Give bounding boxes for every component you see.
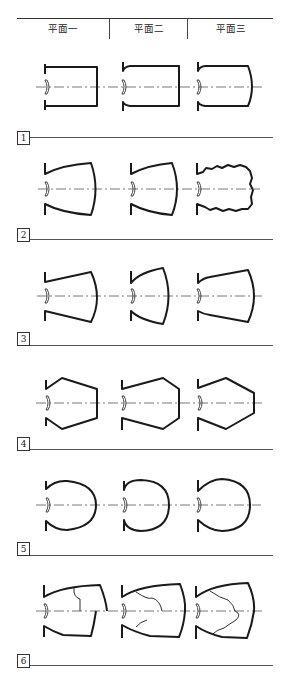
row1-plane2 xyxy=(122,62,179,111)
row-label-2: 2 xyxy=(17,228,30,242)
row1-plane1 xyxy=(45,64,97,110)
row3-plane1 xyxy=(45,272,97,322)
row5-plane3 xyxy=(197,479,250,532)
row-6-diagrams xyxy=(36,583,264,639)
row4-plane3 xyxy=(198,378,254,431)
row-label-6: 6 xyxy=(17,654,30,668)
row1-plane3 xyxy=(197,62,252,111)
row-divider-3 xyxy=(30,345,273,346)
row-divider-6 xyxy=(30,665,273,666)
row-label-1: 1 xyxy=(17,131,30,145)
row-label-4: 4 xyxy=(17,437,30,451)
row4-plane1 xyxy=(46,378,97,429)
row-divider-5 xyxy=(30,555,273,556)
row-3-diagrams xyxy=(37,268,262,324)
row5-plane2 xyxy=(123,480,169,531)
row-label-3: 3 xyxy=(17,332,30,346)
row-2-diagrams xyxy=(38,163,260,215)
row-divider-4 xyxy=(30,449,273,450)
row-5-diagrams xyxy=(36,479,261,532)
row4-plane2 xyxy=(122,378,179,430)
row-divider-1 xyxy=(30,137,273,138)
row-label-5: 5 xyxy=(17,542,30,556)
chamber-diagrams xyxy=(0,0,289,686)
row-divider-2 xyxy=(30,239,273,240)
row-4-diagrams xyxy=(36,378,265,431)
row-1-diagrams xyxy=(36,62,262,111)
row5-plane1 xyxy=(46,481,96,531)
